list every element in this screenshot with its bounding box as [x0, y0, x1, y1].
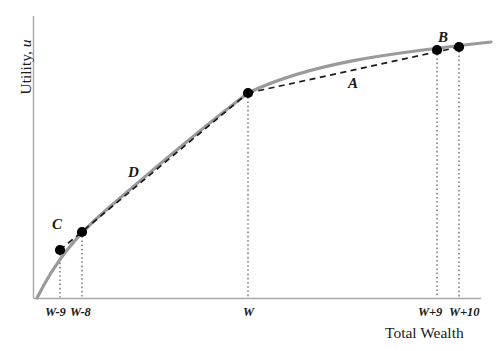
data-points-group — [55, 42, 464, 255]
chart-figure: Utility, u Total Wealth W-9 W-8 W W+9 W+… — [0, 0, 498, 351]
xtick-label-w-plus-9: W+9 — [418, 306, 442, 319]
xtick-label-w-minus-8: W-8 — [70, 306, 91, 319]
point-w — [243, 88, 253, 98]
annotation-d: D — [128, 165, 139, 180]
point-w-plus-10 — [454, 42, 464, 52]
y-axis-title-symbol: u — [17, 40, 34, 48]
annotation-c: C — [52, 217, 62, 232]
point-w-minus-9 — [55, 245, 65, 255]
xtick-label-w-minus-9: W-9 — [45, 306, 66, 319]
segment-D-line — [60, 93, 248, 250]
xtick-label-w: W — [243, 306, 254, 319]
utility-curve — [37, 42, 491, 298]
annotation-a: A — [348, 76, 358, 91]
droplines-group — [60, 47, 459, 298]
y-axis-title: Utility, u — [17, 7, 35, 127]
x-axis-title: Total Wealth — [385, 325, 464, 341]
annotation-b: B — [438, 30, 448, 45]
point-b — [432, 45, 442, 55]
xtick-label-w-plus-10: W+10 — [449, 306, 479, 319]
y-axis-title-prefix: Utility, — [17, 47, 34, 94]
point-c — [77, 227, 87, 237]
plot-canvas — [0, 0, 498, 351]
